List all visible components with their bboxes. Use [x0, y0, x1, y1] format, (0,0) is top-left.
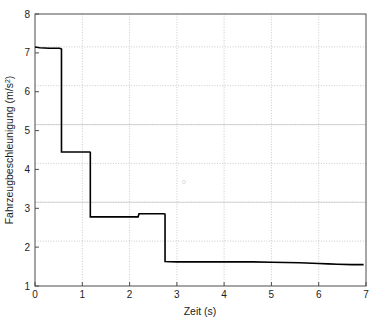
chart-figure: 1 2 3 4 5 6 7 8 0 1 2 3 4 5 6 7 Zeit (s)…	[0, 0, 390, 322]
y-tick-label: 2	[24, 242, 30, 253]
y-axis-title-base: Fahrzeugbeschleunigung (m/s	[3, 83, 15, 224]
y-tick-label: 1	[24, 281, 30, 292]
x-tick-labels: 0 1 2 3 4 5 6 7	[32, 289, 369, 300]
y-tick-label: 8	[24, 9, 30, 20]
y-axis-title: Fahrzeugbeschleunigung (m/s2)	[3, 76, 15, 225]
y-tick-label: 4	[24, 164, 30, 175]
x-axis-title: Zeit (s)	[184, 305, 217, 317]
x-tick-label: 7	[363, 289, 369, 300]
y-tick-label: 7	[24, 47, 30, 58]
x-tick-label: 2	[127, 289, 133, 300]
x-tick-label: 3	[174, 289, 180, 300]
x-tick-label: 1	[80, 289, 86, 300]
plot-background	[35, 14, 366, 286]
y-tick-label: 6	[24, 86, 30, 97]
acceleration-step-chart: 1 2 3 4 5 6 7 8 0 1 2 3 4 5 6 7 Zeit (s)…	[0, 0, 390, 322]
x-tick-label: 6	[316, 289, 322, 300]
y-tick-label: 5	[24, 125, 30, 136]
x-tick-label: 4	[221, 289, 227, 300]
y-axis-title-close: )	[3, 76, 15, 80]
y-tick-label: 3	[24, 203, 30, 214]
svg-text:Fahrzeugbeschleunigung (m/s2): Fahrzeugbeschleunigung (m/s2)	[3, 76, 15, 225]
y-tick-labels: 1 2 3 4 5 6 7 8	[24, 9, 30, 292]
x-tick-label: 5	[269, 289, 275, 300]
x-tick-label: 0	[32, 289, 38, 300]
